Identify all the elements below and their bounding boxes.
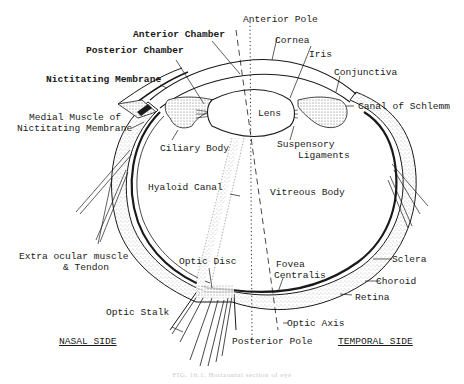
label-medial-muscle-line1: Medial Muscle of bbox=[29, 112, 121, 123]
label-canal-of-schlemm: Canal of Schlemm bbox=[358, 101, 450, 112]
label-optic-disc: Optic Disc bbox=[179, 256, 237, 267]
eye-anatomy-diagram: Anterior Pole Anterior Chamber Posterior… bbox=[0, 0, 464, 384]
choroid-line bbox=[132, 112, 397, 292]
optic-axis-line bbox=[236, 30, 278, 330]
label-anterior-chamber: Anterior Chamber bbox=[133, 29, 225, 40]
label-temporal-side: TEMPORAL SIDE bbox=[338, 336, 413, 347]
label-posterior-chamber: Posterior Chamber bbox=[86, 45, 184, 56]
label-optic-stalk: Optic Stalk bbox=[106, 307, 169, 318]
label-anterior-pole: Anterior Pole bbox=[243, 14, 318, 25]
label-suspensory-line1: Suspensory bbox=[277, 139, 335, 150]
label-hyaloid-canal: Hyaloid Canal bbox=[148, 182, 223, 193]
label-extra-ocular-line2: & Tendon bbox=[63, 262, 109, 273]
label-conjunctiva: Conjunctiva bbox=[334, 67, 397, 78]
label-lens: Lens bbox=[258, 108, 281, 119]
label-retina: Retina bbox=[355, 292, 390, 303]
label-nasal-side: NASAL SIDE bbox=[59, 336, 117, 347]
label-choroid: Choroid bbox=[376, 276, 416, 287]
label-optic-axis: Optic Axis bbox=[287, 318, 345, 329]
label-sclera: Sclera bbox=[392, 254, 427, 265]
label-fovea-line1: Fovea bbox=[276, 259, 305, 270]
eye-drawing bbox=[0, 0, 464, 384]
label-cornea: Cornea bbox=[275, 35, 310, 46]
label-fovea-line2: Centralis bbox=[274, 270, 326, 281]
label-nictitating-membrane: Nictitating Membrane bbox=[46, 74, 161, 85]
label-posterior-pole: Posterior Pole bbox=[232, 336, 313, 347]
optic-stalk-drawing bbox=[170, 284, 236, 366]
label-suspensory-line2: Ligaments bbox=[298, 150, 350, 161]
label-vitreous-body: Vitreous Body bbox=[270, 187, 345, 198]
label-ciliary-body: Ciliary Body bbox=[160, 143, 229, 154]
ciliary-body-right bbox=[298, 97, 347, 128]
label-iris: Iris bbox=[309, 49, 332, 60]
label-medial-muscle-line2: Nictitating Membrane bbox=[17, 123, 132, 134]
figure-caption: FIG. 16.1. Horizontal section of eye bbox=[0, 371, 464, 379]
label-extra-ocular-line1: Extra ocular muscle bbox=[19, 251, 128, 262]
